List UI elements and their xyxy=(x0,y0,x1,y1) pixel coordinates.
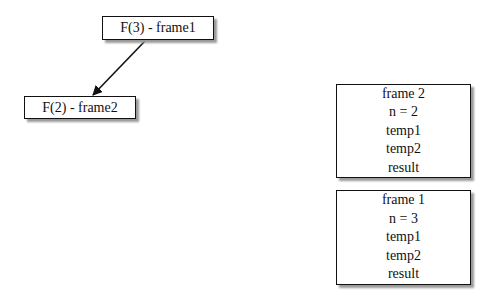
frame-var: n = 3 xyxy=(389,210,418,229)
frame-var: temp1 xyxy=(386,228,421,247)
frame-var: n = 2 xyxy=(389,103,418,122)
frame-title: frame 1 xyxy=(382,191,425,210)
node-label: F(3) - frame1 xyxy=(120,20,195,36)
frame-var: temp2 xyxy=(386,140,421,159)
node-label: F(2) - frame2 xyxy=(42,100,117,116)
stack-frame-2: frame 2 n = 2 temp1 temp2 result xyxy=(336,84,471,178)
frame-var: result xyxy=(388,265,419,284)
tree-node-f2: F(2) - frame2 xyxy=(24,96,136,119)
frame-var: temp1 xyxy=(386,122,421,141)
tree-node-f3: F(3) - frame1 xyxy=(102,16,214,40)
stack-frame-1: frame 1 n = 3 temp1 temp2 result xyxy=(336,190,471,285)
arrow-icon xyxy=(93,41,145,95)
frame-var: result xyxy=(388,159,419,178)
frame-title: frame 2 xyxy=(382,85,425,104)
frame-var: temp2 xyxy=(386,247,421,266)
